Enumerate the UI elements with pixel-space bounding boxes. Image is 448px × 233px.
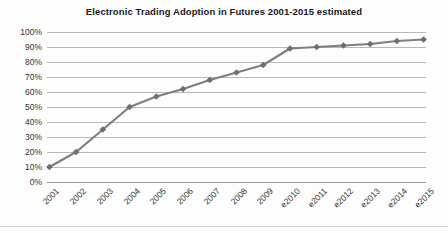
x-tick-label: 2007 <box>201 186 221 206</box>
y-tick-label: 100% <box>0 27 42 37</box>
x-tick-label: e2011 <box>305 186 328 209</box>
y-tick-label: 50% <box>0 102 42 112</box>
x-tick-label: e2015 <box>412 186 436 210</box>
gridline-30 <box>47 137 426 138</box>
y-tick-label: 0% <box>0 177 42 187</box>
x-tick-label: e2014 <box>385 186 409 210</box>
y-tick-label: 10% <box>0 162 42 172</box>
gridline-0 <box>47 182 426 183</box>
gridline-90 <box>47 47 426 48</box>
x-tick-label: 2006 <box>175 186 195 206</box>
gridline-50 <box>47 107 426 108</box>
x-tick-label: e2012 <box>332 186 356 210</box>
y-tick-label: 70% <box>0 72 42 82</box>
x-tick-label: e2013 <box>358 186 382 210</box>
x-tick-label: 2002 <box>68 186 88 206</box>
x-tick-label: 2009 <box>255 186 275 206</box>
gridline-60 <box>47 92 426 93</box>
gridline-80 <box>47 62 426 63</box>
x-tick-label: 2005 <box>148 186 168 206</box>
y-tick-label: 60% <box>0 87 42 97</box>
plot-area <box>47 32 426 182</box>
gridline-70 <box>47 77 426 78</box>
chart-title: Electronic Trading Adoption in Futures 2… <box>0 6 448 17</box>
footer-divider <box>0 226 448 227</box>
x-tick-label: 2001 <box>41 186 61 206</box>
gridline-10 <box>47 167 426 168</box>
gridline-20 <box>47 152 426 153</box>
y-axis-tick-labels: 100%90%80%70%60%50%40%30%20%10%0% <box>0 32 42 182</box>
gridline-40 <box>47 122 426 123</box>
y-tick-label: 20% <box>0 147 42 157</box>
y-tick-label: 40% <box>0 117 42 127</box>
x-tick-label: 2008 <box>228 186 248 206</box>
x-tick-label: 2004 <box>121 186 141 206</box>
y-tick-label: 80% <box>0 57 42 67</box>
chart-container: Electronic Trading Adoption in Futures 2… <box>0 0 448 233</box>
y-tick-label: 30% <box>0 132 42 142</box>
y-tick-label: 90% <box>0 42 42 52</box>
gridline-100 <box>47 32 426 33</box>
x-tick-label: e2010 <box>278 186 302 210</box>
x-tick-label: 2003 <box>94 186 114 206</box>
